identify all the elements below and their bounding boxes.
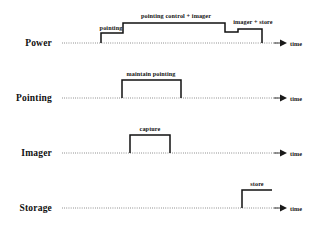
annotation-maintain-pointing: maintain pointing [127,70,177,77]
signal-row-storage: Storagetimestore [19,180,302,213]
waveform-power [101,23,262,43]
annotation-store: store [250,180,264,187]
row-label-pointing: Pointing [16,93,52,103]
row-label-power: Power [25,38,52,48]
time-axis-label-power: time [290,40,302,47]
signal-row-power: Powertimepointingpointing control + imag… [25,12,302,48]
annotation-pointing-control-imager: pointing control + imager [141,12,211,19]
waveform-storage [242,190,272,208]
time-axis-label-imager: time [290,150,302,157]
row-label-storage: Storage [19,203,52,213]
waveform-imager [130,135,170,153]
timing-diagram-page: Powertimepointingpointing control + imag… [0,0,309,229]
time-axis-arrow-icon-imager [280,150,287,157]
time-axis-label-storage: time [290,205,302,212]
time-axis-label-pointing: time [290,95,302,102]
annotation-pointing: pointing [100,24,124,31]
annotation-imager-store: imager + store [233,18,273,25]
time-axis-arrow-icon-pointing [280,95,287,102]
signal-rows-group: Powertimepointingpointing control + imag… [16,12,302,213]
time-axis-arrow-icon-power [280,40,287,47]
signal-row-pointing: Pointingtimemaintain pointing [16,70,302,103]
signal-row-imager: Imagertimecapture [21,125,302,158]
waveform-pointing [122,80,181,98]
annotation-capture: capture [140,125,161,132]
time-axis-arrow-icon-storage [280,205,287,212]
timing-diagram-canvas: Powertimepointingpointing control + imag… [0,0,309,229]
row-label-imager: Imager [21,148,52,158]
